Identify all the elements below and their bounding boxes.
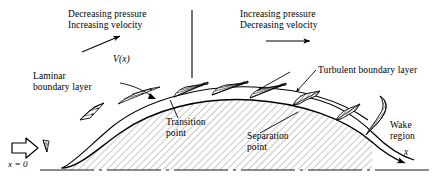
freestream-velocity-label: V(x) xyxy=(113,54,130,65)
wake-region-line1: Wake xyxy=(390,120,412,131)
origin-label: x = 0 xyxy=(8,159,28,170)
upstream-arrow-icon xyxy=(82,36,120,52)
x-axis-label: x xyxy=(404,147,408,158)
upstream-note-line2: Increasing velocity xyxy=(68,20,142,31)
downstream-note-line2: Decreasing velocity xyxy=(240,20,318,31)
downstream-note-line1: Increasing pressure xyxy=(240,9,316,20)
velocity-profile-laminar-2 xyxy=(80,103,104,120)
body-surface xyxy=(62,100,372,170)
separation-point-line2: point xyxy=(247,142,267,153)
separation-point-line1: Separation xyxy=(247,131,289,142)
transition-point-line1: Transition xyxy=(166,117,206,128)
velocity-profile-turbulent-3 xyxy=(250,83,286,98)
laminar-label-line2: boundary layer xyxy=(33,82,92,93)
wake-region-line2: region xyxy=(390,131,415,142)
velocity-profile-laminar-1 xyxy=(43,140,49,152)
x-axis-arrow xyxy=(372,142,405,163)
inflow-arrow-icon xyxy=(12,138,38,158)
velocity-profile-laminar-3 xyxy=(118,87,160,104)
upstream-note-line1: Decreasing pressure xyxy=(68,9,147,20)
boundary-layer-figure: Decreasing pressure Increasing velocity … xyxy=(0,0,435,179)
turbulent-boundary-layer-label: Turbulent boundary layer xyxy=(318,65,417,76)
laminar-label-line1: Laminar xyxy=(33,71,66,82)
leader-turbulent-icon xyxy=(296,70,316,92)
transition-point-line2: point xyxy=(166,128,186,139)
